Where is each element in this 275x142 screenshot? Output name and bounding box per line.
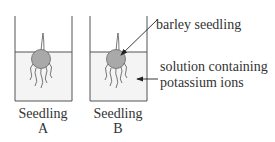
caption-b-line2: B — [88, 121, 148, 136]
beaker-b — [90, 16, 147, 101]
caption-seedling-a: Seedling A — [13, 106, 73, 136]
beaker-a — [15, 16, 72, 101]
caption-a-line2: A — [13, 121, 73, 136]
caption-seedling-b: Seedling B — [88, 106, 148, 136]
barley-seedling-label: barley seedling — [156, 17, 241, 32]
solution-label-line2: potassium ions — [160, 75, 244, 90]
seedling-pointer — [121, 20, 157, 55]
solution-label-line1: solution containing — [160, 59, 268, 74]
caption-a-line1: Seedling — [13, 106, 73, 121]
caption-b-line1: Seedling — [88, 106, 148, 121]
diagram: barley seedling solution containing pota… — [0, 0, 275, 142]
